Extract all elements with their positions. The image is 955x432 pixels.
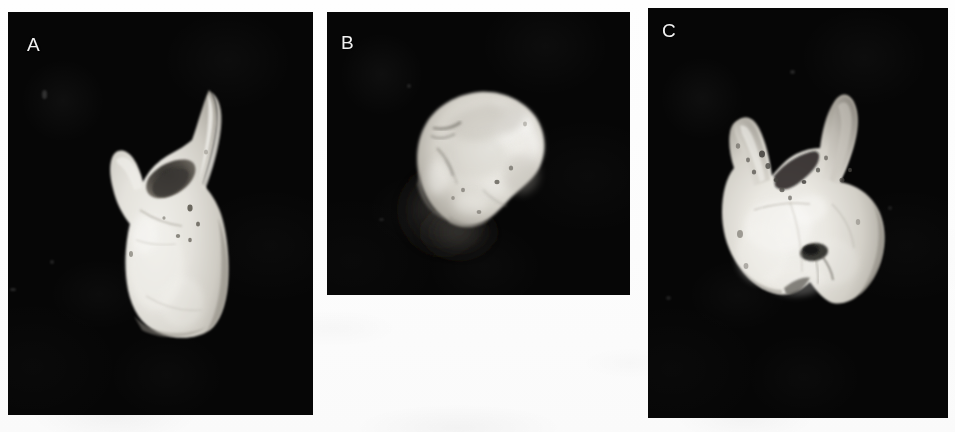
figure-panel-b: B <box>327 12 630 295</box>
figure-panel-a: A <box>8 12 313 415</box>
panel-label-a: A <box>27 35 40 54</box>
panel-label-c: C <box>662 21 676 40</box>
tooth-specimen-distal <box>692 84 910 336</box>
film-speck <box>42 90 47 99</box>
film-speck <box>10 288 16 291</box>
tooth-specimen-occlusal <box>375 64 583 270</box>
film-speck <box>50 260 54 264</box>
film-speck <box>790 70 795 74</box>
tooth-specimen-lateral <box>78 68 253 343</box>
figure-panel-c: C <box>648 8 948 418</box>
film-speck <box>666 296 671 300</box>
panel-label-b: B <box>341 33 354 52</box>
figure-plate: A <box>0 0 955 432</box>
